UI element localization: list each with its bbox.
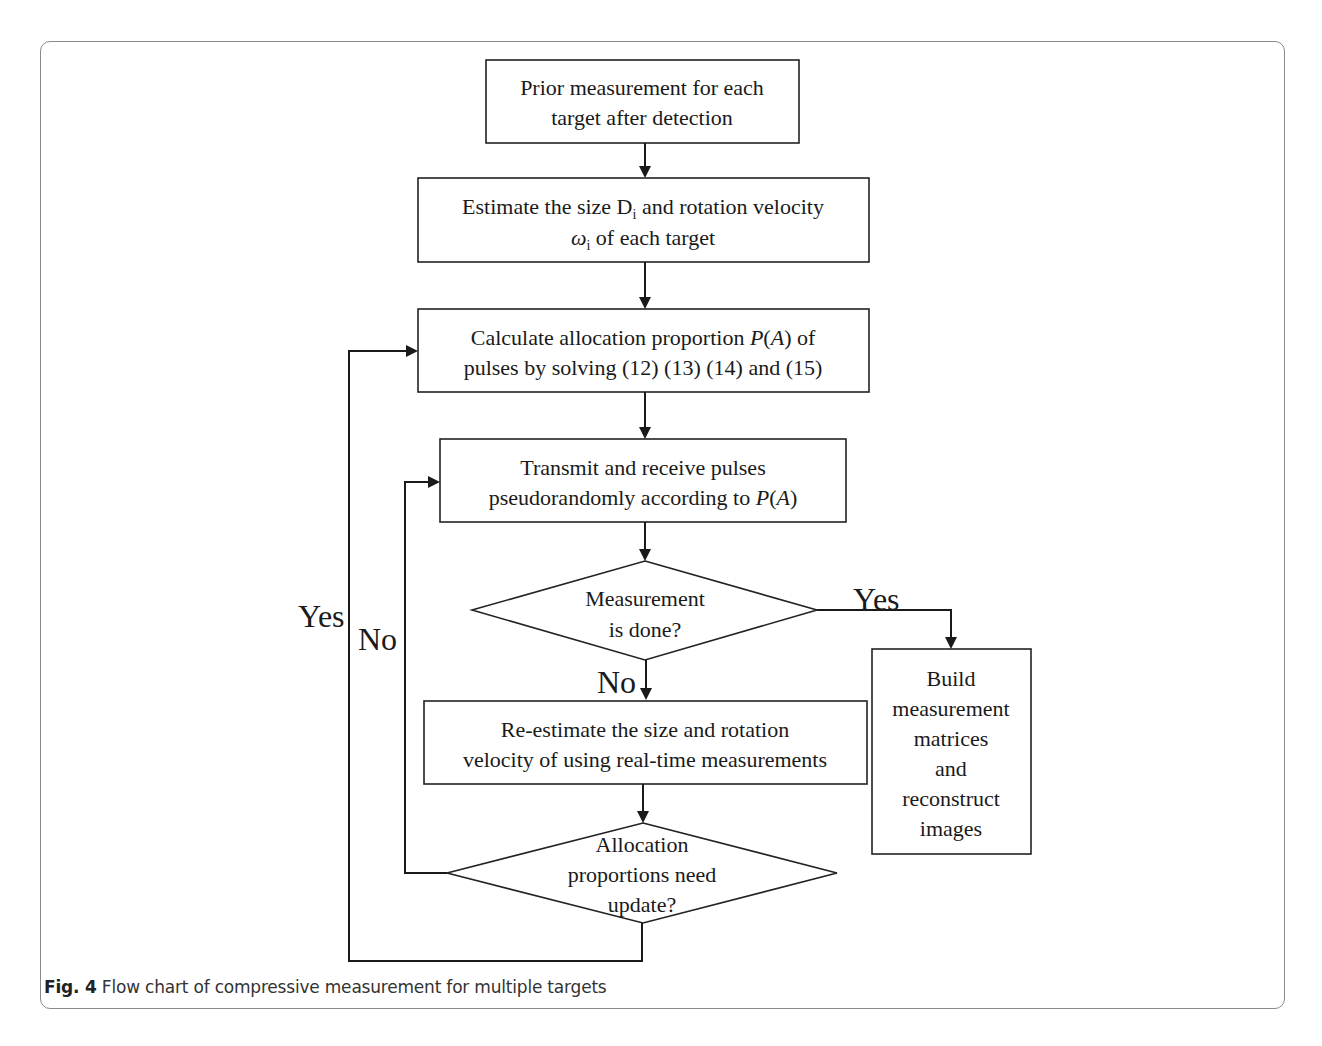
label-done-no: No (597, 664, 636, 700)
node-build-reconstruct: Build measurement matrices and reconstru… (872, 649, 1031, 854)
node-build-line1: Build (927, 666, 976, 691)
node-prior-measurement: Prior measurement for each target after … (486, 60, 799, 143)
node-build-line6: images (920, 816, 982, 841)
flowchart: Prior measurement for each target after … (0, 0, 1322, 1046)
node-calculate-line1: Calculate allocation proportion P(A) of (471, 325, 816, 350)
figure-caption: Fig. 4 Flow chart of compressive measure… (44, 977, 607, 997)
node-calculate-line2: pulses by solving (12) (13) (14) and (15… (464, 355, 823, 380)
label-update-no: No (358, 621, 397, 657)
caption-label: Fig. 4 (44, 977, 97, 997)
node-estimate-line2: ωi of each target (571, 225, 715, 253)
label-done-yes: Yes (853, 581, 900, 617)
node-build-line4: and (935, 756, 967, 781)
node-calculate-allocation: Calculate allocation proportion P(A) of … (418, 309, 869, 392)
node-build-line3: matrices (914, 726, 989, 751)
caption-text: Flow chart of compressive measurement fo… (97, 977, 607, 997)
node-transmit-line2: pseudorandomly according to P(A) (489, 485, 798, 510)
decision-measurement-done: Measurement is done? (472, 561, 817, 660)
edge-update-no-to-transmit (405, 482, 447, 873)
node-reestimate-line1: Re-estimate the size and rotation (501, 717, 789, 742)
node-reestimate: Re-estimate the size and rotation veloci… (424, 701, 867, 784)
node-reestimate-line2: velocity of using real-time measurements (463, 747, 827, 772)
node-build-line5: reconstruct (902, 786, 1000, 811)
node-estimate-line1: Estimate the size Di and rotation veloci… (462, 194, 824, 222)
label-update-yes: Yes (298, 598, 345, 634)
decision-update-line2: proportions need (568, 862, 716, 887)
decision-update-line3: update? (608, 892, 676, 917)
node-transmit-receive: Transmit and receive pulses pseudorandom… (440, 439, 846, 522)
decision-allocation-update: Allocation proportions need update? (447, 823, 837, 923)
node-transmit-line1: Transmit and receive pulses (520, 455, 765, 480)
decision-update-line1: Allocation (596, 832, 689, 857)
decision-done-line1: Measurement (585, 586, 705, 611)
node-prior-line1: Prior measurement for each (520, 75, 764, 100)
node-build-line2: measurement (892, 696, 1009, 721)
decision-done-line2: is done? (609, 617, 682, 642)
node-prior-line2: target after detection (551, 105, 733, 130)
node-estimate-size: Estimate the size Di and rotation veloci… (418, 178, 869, 262)
